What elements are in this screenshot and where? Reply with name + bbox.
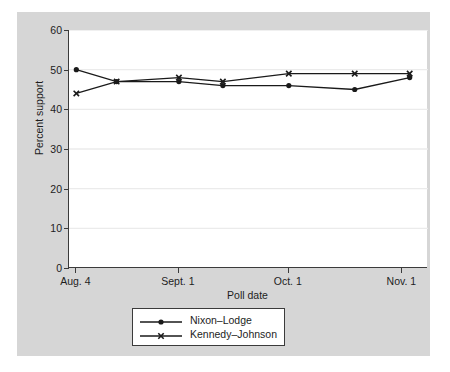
legend-x-marker-icon [139,328,183,340]
figure-background: Percent support 0102030405060 Aug. 4Sept… [17,12,430,356]
x-axis-tick-labels: Aug. 4Sept. 1Oct. 1Nov. 1 [68,275,427,289]
y-axis-tick-marks [17,30,72,268]
x-tick-label: Sept. 1 [161,275,194,287]
chart-figure: Percent support 0102030405060 Aug. 4Sept… [0,0,450,372]
series-line-1 [76,74,409,94]
x-tick-mark [288,268,289,273]
legend-label: Kennedy–Johnson [190,328,277,340]
plot-area [68,30,427,268]
x-tick-mark [178,268,179,273]
data-point-marker [74,67,79,72]
legend-circle-marker-icon [139,314,183,326]
x-tick-label: Oct. 1 [274,275,302,287]
x-tick-mark [401,268,402,273]
data-point-marker [286,83,291,88]
data-point-marker [352,87,357,92]
plot-svg [69,30,428,268]
legend-item: Kennedy–Johnson [139,327,277,341]
x-tick-label: Nov. 1 [387,275,417,287]
x-tick-label: Aug. 4 [60,275,90,287]
chart-legend: Nixon–LodgeKennedy–Johnson [132,308,285,346]
legend-item: Nixon–Lodge [139,313,277,327]
x-tick-mark [75,268,76,273]
legend-label: Nixon–Lodge [190,314,252,326]
x-axis-title: Poll date [68,289,427,301]
